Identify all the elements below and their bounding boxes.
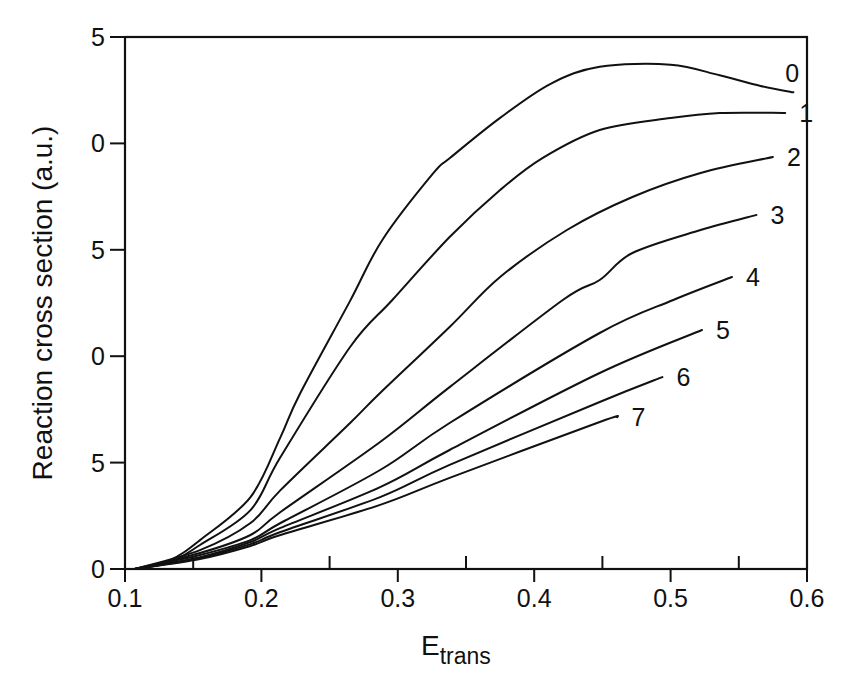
- curve-3: [135, 215, 757, 569]
- curve-label-2: 2: [787, 143, 801, 171]
- curve-label-4: 4: [746, 263, 760, 291]
- curve-1: [135, 113, 786, 569]
- curve-0: [135, 64, 794, 569]
- y-tick-label: 5: [91, 449, 105, 477]
- x-axis-ticks: 0.10.20.30.40.50.6: [108, 556, 825, 612]
- y-tick-label: 5: [91, 236, 105, 264]
- y-tick-label: 0: [91, 342, 105, 370]
- y-tick-label: 0: [91, 555, 105, 583]
- curve-label-1: 1: [799, 99, 813, 127]
- x-axis-title-main: E: [421, 630, 440, 661]
- x-tick-label: 0.4: [517, 584, 552, 612]
- curve-label-5: 5: [716, 316, 730, 344]
- y-axis-title: Reaction cross section (a.u.): [27, 126, 58, 481]
- curve-label-7: 7: [631, 403, 645, 431]
- x-tick-label: 0.3: [380, 584, 415, 612]
- x-tick-label: 0.1: [108, 584, 143, 612]
- x-axis-title-subscript: trans: [440, 643, 491, 669]
- curve-label-6: 6: [676, 363, 690, 391]
- y-axis-ticks: 050505: [91, 23, 125, 583]
- x-tick-label: 0.5: [653, 584, 688, 612]
- curve-6: [135, 377, 663, 569]
- plot-frame: [125, 37, 807, 569]
- y-tick-label: 0: [91, 129, 105, 157]
- x-axis-title: Etrans: [421, 630, 491, 669]
- curve-7: [135, 416, 618, 569]
- curve-label-0: 0: [785, 59, 799, 87]
- curve-label-3: 3: [771, 201, 785, 229]
- x-tick-label: 0.2: [244, 584, 279, 612]
- curve-labels: 01234567: [631, 59, 813, 431]
- x-tick-label: 0.6: [790, 584, 825, 612]
- reaction-cross-section-chart: 0.10.20.30.40.50.6 050505 01234567 React…: [0, 0, 850, 684]
- y-tick-label: 5: [91, 23, 105, 51]
- curves: [135, 64, 794, 569]
